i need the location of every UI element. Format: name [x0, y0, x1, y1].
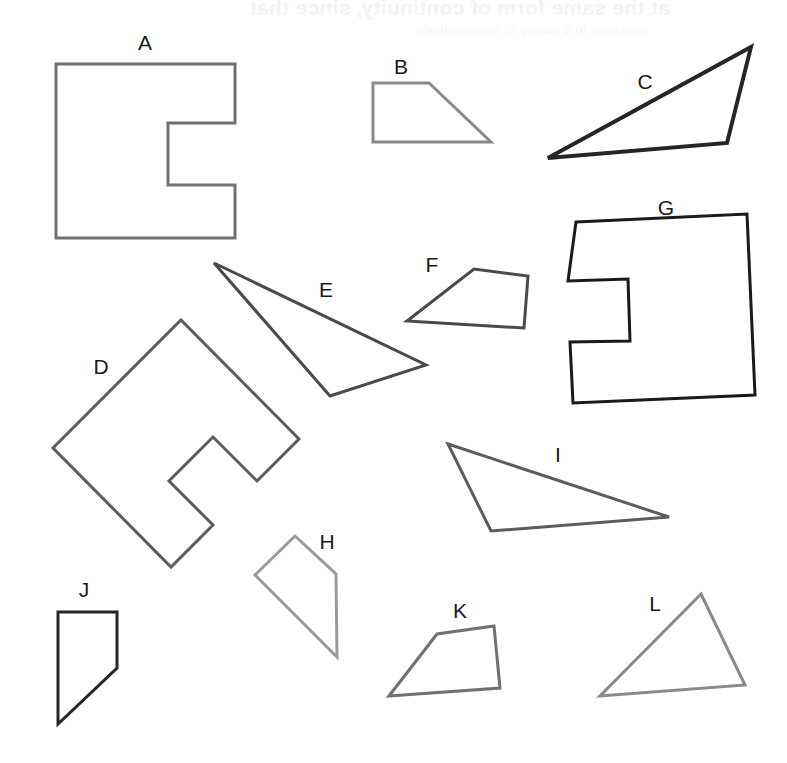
shape-h [255, 536, 337, 657]
shape-label-g: G [658, 196, 674, 219]
shape-k [389, 626, 500, 696]
shape-label-j: J [79, 578, 90, 601]
shape-label-e: E [319, 278, 333, 301]
shape-label-i: I [555, 443, 561, 466]
shape-label-h: H [319, 530, 334, 553]
shape-f [407, 269, 528, 328]
shape-label-l: L [649, 592, 661, 615]
shape-labels-group: ABCDEFGHIJKL [79, 31, 674, 622]
shape-l [600, 594, 745, 696]
shape-d [53, 320, 299, 567]
shapes-group [53, 47, 755, 724]
shape-g [568, 214, 755, 403]
shape-label-f: F [426, 253, 439, 276]
shape-label-c: C [637, 70, 652, 93]
shapes-figure: ABCDEFGHIJKL [0, 0, 787, 763]
shape-label-d: D [93, 355, 108, 378]
shape-label-k: K [453, 599, 467, 622]
figure-page: at the same form of continuity, since th… [0, 0, 787, 763]
shape-c [548, 47, 751, 158]
shape-label-b: B [394, 55, 408, 78]
shape-j [58, 612, 117, 724]
shape-a [56, 64, 235, 238]
shape-label-a: A [138, 31, 152, 54]
shape-b [373, 83, 491, 142]
